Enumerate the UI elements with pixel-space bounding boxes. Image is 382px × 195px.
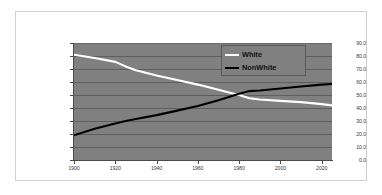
y-tick-label: 0.0 [312, 157, 366, 163]
series-line-nonwhite [74, 84, 332, 135]
x-tick-mark [198, 161, 199, 164]
x-tick-mark [322, 161, 323, 164]
x-tick-label: 2000 [265, 165, 295, 171]
x-tick-mark [74, 161, 75, 164]
y-tick-label: 40.0 [312, 105, 366, 111]
y-tick-mark [70, 43, 73, 44]
y-tick-mark [70, 69, 73, 70]
x-tick-mark [280, 161, 281, 164]
x-tick-mark [115, 161, 116, 164]
y-tick-label: 20.0 [312, 131, 366, 137]
x-tick-label: 1920 [100, 165, 130, 171]
x-tick-label: 2020 [307, 165, 337, 171]
y-tick-mark [70, 160, 73, 161]
y-tick-mark [70, 147, 73, 148]
x-tick-mark [239, 161, 240, 164]
y-tick-label: 30.0 [312, 118, 366, 124]
legend-label-nonwhite: NonWhite [242, 63, 276, 72]
chart-legend: White NonWhite [221, 45, 306, 76]
y-tick-mark [70, 121, 73, 122]
y-tick-label: 90.0 [312, 40, 366, 46]
x-tick-mark [157, 161, 158, 164]
y-tick-mark [70, 134, 73, 135]
y-axis-line [73, 43, 74, 161]
chart-screenshot: 0.010.020.030.040.050.060.070.080.090.0 … [0, 0, 382, 195]
x-tick-label: 1960 [183, 165, 213, 171]
y-tick-mark [70, 95, 73, 96]
y-tick-label: 60.0 [312, 79, 366, 85]
y-tick-mark [70, 108, 73, 109]
x-tick-label: 1940 [142, 165, 172, 171]
x-axis-line [73, 160, 333, 161]
y-tick-label: 50.0 [312, 92, 366, 98]
y-tick-label: 70.0 [312, 66, 366, 72]
legend-swatch-white-icon [225, 54, 239, 56]
y-tick-mark [70, 82, 73, 83]
x-tick-label: 1980 [224, 165, 254, 171]
legend-label-white: White [242, 50, 262, 59]
figure-frame: 0.010.020.030.040.050.060.070.080.090.0 … [15, 11, 367, 181]
y-tick-label: 80.0 [312, 53, 366, 59]
y-tick-mark [70, 56, 73, 57]
x-tick-label: 1900 [59, 165, 89, 171]
y-tick-label: 10.0 [312, 144, 366, 150]
legend-item-white: White [225, 48, 302, 61]
legend-item-nonwhite: NonWhite [225, 61, 302, 74]
legend-swatch-nonwhite-icon [225, 67, 239, 69]
